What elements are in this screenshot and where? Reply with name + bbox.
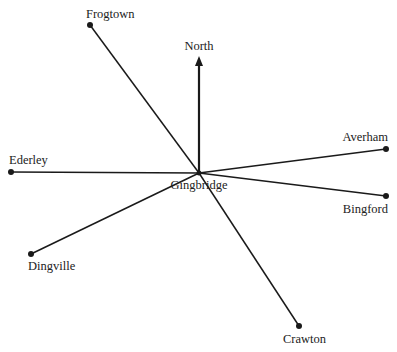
town-label-bingford: Bingford <box>343 202 389 216</box>
bearing-line-averham <box>199 149 386 173</box>
bearing-line-ederley <box>11 172 199 173</box>
town-label-crawton: Crawton <box>283 332 327 346</box>
town-point-ederley <box>8 169 14 175</box>
town-point-frogtown <box>87 22 93 28</box>
town-point-dingville <box>28 251 34 257</box>
map-svg: FrogtownEderleyAverhamBingfordDingvilleC… <box>0 0 397 352</box>
town-point-crawton <box>296 323 302 329</box>
bearing-line-crawton <box>199 173 299 326</box>
north-label: North <box>184 39 214 53</box>
town-point-bingford <box>383 193 389 199</box>
town-label-dingville: Dingville <box>28 259 76 273</box>
center-label-gingbridge: Gingbridge <box>171 178 228 192</box>
town-label-averham: Averham <box>342 130 388 144</box>
town-label-ederley: Ederley <box>9 153 49 167</box>
bearing-line-frogtown <box>90 25 199 173</box>
town-point-averham <box>383 146 389 152</box>
bearing-diagram: FrogtownEderleyAverhamBingfordDingvilleC… <box>0 0 397 352</box>
north-arrow-head-icon <box>195 56 203 66</box>
town-label-frogtown: Frogtown <box>86 7 135 21</box>
center-point-gingbridge <box>197 171 202 176</box>
